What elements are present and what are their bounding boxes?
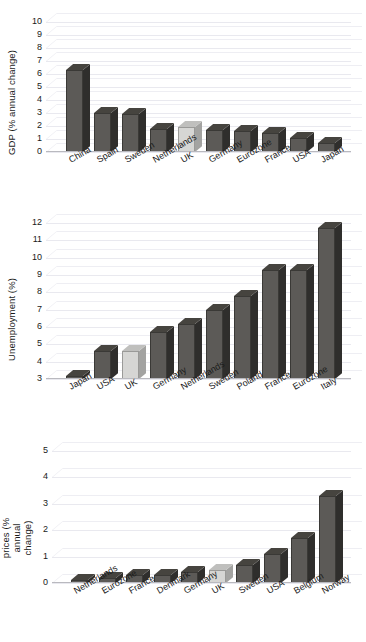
- bar-side: [251, 290, 258, 379]
- y-tick-label: 1: [43, 551, 48, 562]
- bar-front: [122, 114, 139, 152]
- bar-side: [83, 64, 90, 152]
- bar-front: [318, 228, 335, 379]
- chart-gdp-y-axis-title: GDP (% annual change): [0, 0, 22, 205]
- chart-unemployment-bars: [46, 223, 351, 379]
- bar-front: [290, 270, 307, 379]
- bar: [319, 496, 336, 583]
- bar: [94, 113, 111, 152]
- gridline-riser: [46, 214, 70, 223]
- bar: [150, 332, 167, 379]
- y-tick-label: 0: [37, 146, 42, 157]
- y-tick-label: 10: [32, 16, 42, 27]
- bar: [291, 538, 308, 583]
- bar-front: [150, 332, 167, 379]
- y-tick-label: 2: [43, 524, 48, 535]
- bar: [122, 114, 139, 152]
- y-tick-label: 9: [37, 269, 42, 280]
- bar-side: [279, 264, 286, 379]
- gridline-back: [63, 442, 362, 443]
- y-tick-label: 4: [37, 94, 42, 105]
- y-tick-label: 12: [32, 217, 42, 228]
- chart-unemployment: Unemployment (%) 3456789101112 JapanUSAU…: [0, 205, 366, 433]
- y-tick-label: 8: [37, 286, 42, 297]
- y-tick-label: 7: [37, 55, 42, 66]
- chart-unemployment-y-axis-title: Unemployment (%): [0, 205, 22, 433]
- chart-consumer-prices: Consumer prices (% annual change) 012345…: [0, 433, 366, 642]
- bar-front: [319, 496, 336, 583]
- chart-consumer-prices-bars: [52, 451, 351, 583]
- chart-gdp: GDP (% annual change) 012345678910 China…: [0, 0, 366, 205]
- bar-side: [336, 490, 343, 583]
- bar-side: [307, 264, 314, 379]
- bar: [290, 270, 307, 379]
- chart-consumer-prices-y-axis-title: Consumer prices (% annual change): [0, 433, 22, 642]
- gridline-back: [57, 214, 362, 215]
- y-tick-label: 9: [37, 29, 42, 40]
- bar: [234, 296, 251, 379]
- y-tick-label: 3: [37, 373, 42, 384]
- gridline-riser: [52, 442, 76, 451]
- y-tick-label: 3: [37, 107, 42, 118]
- bar-front: [234, 296, 251, 379]
- y-tick-label: 8: [37, 42, 42, 53]
- page-footer-artifact: [0, 632, 366, 642]
- y-tick-label: 5: [37, 338, 42, 349]
- charts-page: GDP (% annual change) 012345678910 China…: [0, 0, 366, 642]
- bar: [66, 70, 83, 152]
- bar-side: [139, 345, 146, 379]
- bar-front: [262, 270, 279, 379]
- bar: [262, 270, 279, 379]
- bar-front: [291, 538, 308, 583]
- y-tick-label: 0: [43, 577, 48, 588]
- y-tick-label: 4: [37, 356, 42, 367]
- y-tick-label: 5: [43, 445, 48, 456]
- y-tick-label: 6: [37, 321, 42, 332]
- chart-unemployment-plot-area: 3456789101112: [46, 223, 351, 379]
- y-tick-label: 7: [37, 304, 42, 315]
- y-tick-label: 4: [43, 471, 48, 482]
- y-tick-label: 3: [43, 498, 48, 509]
- chart-gdp-plot-area: 012345678910: [46, 22, 351, 152]
- gridline-back: [57, 13, 362, 14]
- y-tick-label: 10: [32, 252, 42, 263]
- y-tick-label: 1: [37, 133, 42, 144]
- y-tick-label: 11: [33, 234, 42, 245]
- bar-front: [122, 351, 139, 379]
- bar-front: [66, 70, 83, 152]
- bar-front: [94, 113, 111, 152]
- chart-consumer-prices-plot-area: 012345: [52, 451, 351, 583]
- bar: [318, 228, 335, 379]
- gridline-riser: [46, 13, 70, 22]
- y-tick-label: 5: [37, 81, 42, 92]
- bar: [122, 351, 139, 379]
- bar-side: [335, 222, 342, 379]
- y-tick-label: 2: [37, 120, 42, 131]
- chart-gdp-bars: [46, 22, 351, 152]
- y-tick-label: 6: [37, 68, 42, 79]
